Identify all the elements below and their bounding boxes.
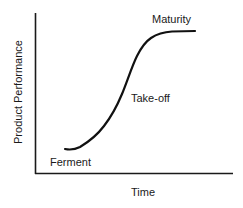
y-axis-label: Product Performance <box>12 40 24 144</box>
s-curve-diagram <box>0 0 243 208</box>
x-axis-label: Time <box>131 186 155 198</box>
s-curve-line <box>65 31 195 150</box>
stage-label-take-off: Take-off <box>131 92 170 104</box>
stage-label-maturity: Maturity <box>152 13 191 25</box>
stage-label-ferment: Ferment <box>50 156 91 168</box>
